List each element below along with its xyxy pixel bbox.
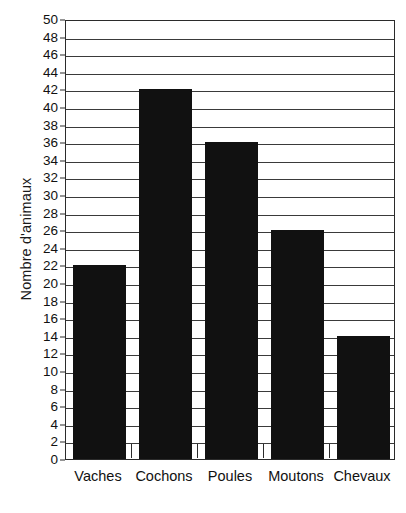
y-axis-tick-label: 8 (30, 383, 58, 397)
x-axis-tick-label-poules: Poules (208, 466, 252, 486)
y-axis-tick-label: 34 (30, 154, 58, 168)
x-axis-tick-labels: VachesCochonsPoulesMoutonsChevaux (65, 466, 395, 490)
y-axis-tick-label: 38 (30, 119, 58, 133)
x-axis-tick-marks (65, 444, 395, 460)
bar-cochons (139, 89, 192, 459)
y-axis-tick-label: 40 (30, 101, 58, 115)
y-axis-tick-label: 46 (30, 48, 58, 62)
y-axis-tick-label: 42 (30, 84, 58, 98)
y-axis-tick-label: 12 (30, 348, 58, 362)
y-axis-tick-label: 24 (30, 242, 58, 256)
y-axis-tick-label: 32 (30, 172, 58, 186)
bar-chevaux (337, 336, 390, 459)
y-axis-tick-label: 22 (30, 260, 58, 274)
y-axis-tick-label: 0 (30, 453, 58, 467)
x-axis-tick-mark (197, 444, 198, 458)
x-axis-tick-label-moutons: Moutons (268, 466, 324, 486)
y-axis-tick-labels: 0246810121416182022242628303234363840424… (30, 20, 58, 460)
bar-poules (205, 142, 258, 459)
y-axis-tick-label: 10 (30, 365, 58, 379)
y-axis-tick-label: 14 (30, 330, 58, 344)
x-axis-tick-mark (131, 444, 132, 458)
y-axis-tick-label: 18 (30, 295, 58, 309)
y-axis-tick-label: 48 (30, 31, 58, 45)
x-axis-tick-mark (263, 444, 264, 458)
bars-layer (66, 21, 394, 459)
y-axis-tick-label: 30 (30, 189, 58, 203)
x-axis-tick-label-vaches: Vaches (74, 466, 121, 486)
x-axis-tick-mark (329, 444, 330, 458)
bar-chart: Nombre d'animaux 02468101214161820222426… (0, 0, 406, 513)
y-axis-tick-label: 28 (30, 207, 58, 221)
y-axis-tick-label: 26 (30, 224, 58, 238)
bar-moutons (271, 230, 324, 459)
x-axis-tick-label-chevaux: Chevaux (333, 466, 390, 486)
y-axis-tick-label: 36 (30, 136, 58, 150)
y-axis-tick-label: 16 (30, 312, 58, 326)
y-axis-tick-label: 20 (30, 277, 58, 291)
x-axis-tick-label-cochons: Cochons (135, 466, 192, 486)
y-axis-tick-label: 2 (30, 436, 58, 450)
y-axis-tick-label: 50 (30, 13, 58, 27)
plot-area (65, 20, 395, 460)
y-axis-tick-label: 6 (30, 400, 58, 414)
y-axis-tick-label: 4 (30, 418, 58, 432)
y-axis-tick-label: 44 (30, 66, 58, 80)
bar-vaches (73, 265, 126, 459)
